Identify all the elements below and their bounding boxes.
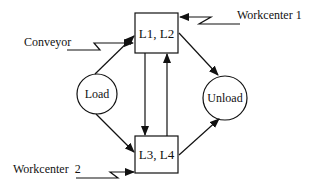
edge-l1l2-to-unload [179,33,218,75]
edge-l3l4-to-unload [179,119,219,155]
flow-diagram: L1, L2 L3, L4 Load Unload Conveyor Workc… [0,0,316,189]
node-unload: Unload [203,76,247,120]
node-l1-l2-label: L1, L2 [139,26,174,41]
input-workcenter-2: Workcenter 2 [13,162,134,178]
edge-load-to-l3l4 [96,114,134,152]
conveyor-label: Conveyor [24,35,71,49]
node-unload-label: Unload [207,91,242,105]
workcenter-1-label: Workcenter 1 [237,8,302,22]
node-load: Load [77,74,117,114]
input-workcenter-1: Workcenter 1 [180,8,302,24]
node-load-label: Load [85,87,110,101]
node-l3-l4: L3, L4 [135,136,178,173]
edge-load-to-l1l2 [95,36,134,74]
input-conveyor: Conveyor [24,35,133,50]
workcenter-2-label: Workcenter 2 [13,162,81,176]
zigzag-arrow-icon [76,172,134,178]
node-l3-l4-label: L3, L4 [139,147,175,162]
node-l1-l2: L1, L2 [135,13,178,53]
zigzag-arrow-icon [180,17,240,24]
